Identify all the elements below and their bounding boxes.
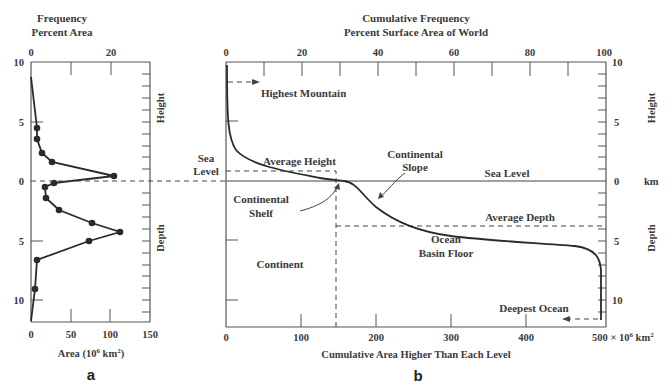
panel-a-x-label-150: 150 <box>142 329 158 340</box>
average-depth-label: Average Depth <box>485 211 555 223</box>
panel-b-label: b <box>413 367 422 384</box>
panel-a-height-label: Height <box>155 92 166 123</box>
continental-slope-label-line1: Continental <box>387 148 443 160</box>
continental-slope-label-line2: Slope <box>402 161 428 173</box>
panel-b-x-label-100: 100 <box>293 332 309 343</box>
panel-b-top-tick-100: 100 <box>596 47 612 58</box>
panel-a-title-line2: Percent Area <box>32 26 93 38</box>
panel-a-right-ticks <box>142 74 150 312</box>
panel-b-x-axis-title: Cumulative Area Higher Than Each Level <box>321 349 510 360</box>
panel-b-title-line2: Percent Surface Area of World <box>344 26 488 38</box>
continental-slope-arrow-icon <box>378 192 384 199</box>
continental-shelf-label-line1: Continental <box>233 193 289 205</box>
panel-b-height-label: Height <box>646 92 657 123</box>
panel-b-top-tick-20: 20 <box>297 47 308 58</box>
panel-b-depth-label: Depth <box>646 224 657 252</box>
panel-a-label: a <box>87 366 96 383</box>
panel-b-x-label-300: 300 <box>443 332 459 343</box>
hypsometric-figure: Frequency Percent Area 0 20 <box>0 0 672 389</box>
panel-a-depth-label: Depth <box>155 224 166 252</box>
panel-b-top-tick-60: 60 <box>449 47 460 58</box>
deepest-ocean-label: Deepest Ocean <box>499 302 568 314</box>
panel-b-y-label-0: 0 <box>614 176 619 187</box>
continental-shelf-arrow-icon <box>334 183 340 190</box>
panel-b-bottom-ticks <box>301 314 526 327</box>
panel-b-y-label-10-bottom: 10 <box>612 295 623 306</box>
panel-a-y-label-0: 0 <box>19 176 24 187</box>
panel-a-top-tick-20: 20 <box>106 47 117 58</box>
panel-b-km-unit: km <box>644 176 659 187</box>
panel-a-x-label-100: 100 <box>102 329 118 340</box>
sea-level-left-label-line1: Sea <box>198 152 215 164</box>
continental-shelf-pointer <box>300 187 337 211</box>
panel-a-x-label-50: 50 <box>66 329 77 340</box>
average-height-label: Average Height <box>263 155 336 167</box>
deepest-ocean-arrow-icon <box>562 316 570 322</box>
sea-level-left-label-line2: Level <box>193 165 219 177</box>
panel-b-y-label-5-top: 5 <box>614 117 619 128</box>
panel-a-x-axis-title: Area (106 km2) <box>58 347 125 360</box>
panel-b-left-ticks <box>226 121 238 300</box>
ocean-basin-label-line2: Basin Floor <box>419 247 474 259</box>
panel-b-x-label-200: 200 <box>368 332 384 343</box>
highest-mountain-label: Highest Mountain <box>261 87 346 99</box>
panel-a-y-label-10-top: 10 <box>14 57 25 68</box>
panel-b-top-tick-40: 40 <box>373 47 384 58</box>
panel-b-top-tick-80: 80 <box>525 47 536 58</box>
panel-a-data-points <box>32 125 124 293</box>
panel-b-x-label-500-unit: 500 × 106 km2 <box>592 331 654 343</box>
panel-b-top-tick-0: 0 <box>223 47 228 58</box>
panel-a-title-line1: Frequency <box>37 12 87 24</box>
panel-a-x-label-0: 0 <box>28 329 33 340</box>
panel-b-x-label-0: 0 <box>223 332 228 343</box>
sea-level-right-label: Sea Level <box>485 167 530 179</box>
ocean-basin-label-line1: Ocean <box>431 233 461 245</box>
highest-mountain-arrow-icon <box>252 79 260 85</box>
panel-b-title-line1: Cumulative Frequency <box>362 12 470 24</box>
panel-b-x-label-400: 400 <box>518 332 534 343</box>
panel-b-y-label-5-bottom: 5 <box>614 236 619 247</box>
panel-b-top-ticks <box>264 62 568 76</box>
continental-shelf-label-line2: Shelf <box>249 207 273 219</box>
panel-a-y-label-10-bottom: 10 <box>14 295 25 306</box>
continental-slope-pointer <box>380 173 405 197</box>
panel-b-right-ticks <box>598 74 606 312</box>
panel-b-cumulative-chart: Cumulative Frequency Percent Surface Are… <box>193 12 659 384</box>
panel-a-y-label-5-bottom: 5 <box>19 236 24 247</box>
panel-a-top-tick-0: 0 <box>28 47 33 58</box>
panel-a-y-label-5-top: 5 <box>19 117 24 128</box>
panel-b-y-label-10-top: 10 <box>612 57 623 68</box>
panel-a-frequency-chart: Frequency Percent Area 0 20 <box>14 12 167 383</box>
continent-label: Continent <box>256 258 303 270</box>
